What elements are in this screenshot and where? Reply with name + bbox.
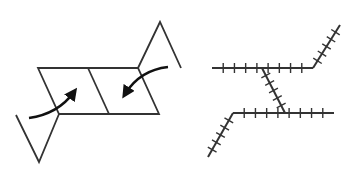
top-right-diagonal-segment xyxy=(313,25,340,68)
divider-line xyxy=(88,68,109,114)
left-fold-diagram xyxy=(16,22,181,162)
right-hatched-diagram xyxy=(208,25,340,157)
figure-canvas xyxy=(0,0,351,172)
right-flap xyxy=(138,22,181,68)
left-flap xyxy=(16,114,59,162)
bottom-left-diagonal-segment xyxy=(208,113,233,157)
middle-diagonal-segment xyxy=(261,68,285,113)
diagram-svg xyxy=(0,0,351,172)
right-fold-arrow-icon xyxy=(125,67,168,94)
